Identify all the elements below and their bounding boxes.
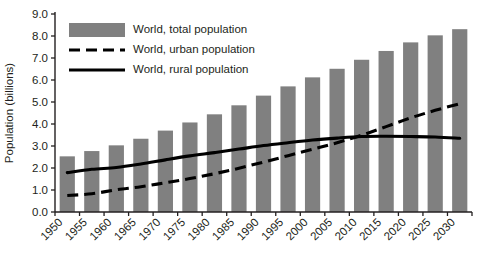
legend-swatch-total-population	[69, 23, 125, 37]
y-tick-label-6.0: 6.0	[32, 74, 48, 86]
chart-canvas: 0.01.02.03.04.05.06.07.08.09.0Population…	[0, 0, 491, 262]
y-tick-label-8.0: 8.0	[32, 30, 48, 42]
x-tick-label-1970: 1970	[136, 216, 163, 243]
x-tick-label-1960: 1960	[87, 216, 114, 243]
bar-2025	[428, 35, 443, 212]
bar-1955	[84, 151, 99, 212]
x-tick-label-2020: 2020	[382, 216, 409, 243]
bar-2000	[305, 77, 320, 212]
x-tick-label-2015: 2015	[357, 216, 384, 243]
x-tick-label-2010: 2010	[332, 216, 359, 243]
legend-label-total-population: World, total population	[133, 23, 247, 35]
y-tick-label-1.0: 1.0	[32, 184, 48, 196]
x-tick-label-1950: 1950	[38, 216, 65, 243]
bar-2015	[379, 51, 394, 212]
y-tick-label-7.0: 7.0	[32, 52, 48, 64]
bar-2020	[403, 42, 418, 212]
bar-1985	[231, 105, 246, 212]
x-tick-label-2025: 2025	[406, 216, 433, 243]
bar-1990	[256, 96, 271, 212]
y-tick-label-2.0: 2.0	[32, 162, 48, 174]
bar-1995	[280, 86, 295, 212]
legend-label-urban-population: World, urban population	[133, 43, 255, 55]
legend-label-rural-population: World, rural population	[133, 63, 249, 75]
bar-1965	[133, 139, 148, 212]
bar-1975	[182, 122, 197, 212]
bar-2030	[452, 29, 467, 212]
y-tick-label-0.0: 0.0	[32, 206, 48, 218]
bar-1970	[158, 131, 173, 212]
y-tick-label-3.0: 3.0	[32, 140, 48, 152]
y-axis-title: Population (billions)	[3, 63, 15, 164]
bar-1950	[60, 156, 75, 212]
x-tick-label-1980: 1980	[185, 216, 212, 243]
bar-1980	[207, 114, 222, 212]
x-tick-label-1990: 1990	[234, 216, 261, 243]
x-tick-label-1995: 1995	[259, 216, 286, 243]
y-tick-label-5.0: 5.0	[32, 96, 48, 108]
x-tick-label-2005: 2005	[308, 216, 335, 243]
y-tick-label-4.0: 4.0	[32, 118, 48, 130]
x-tick-label-2000: 2000	[283, 216, 310, 243]
bar-1960	[109, 145, 124, 212]
population-chart: 0.01.02.03.04.05.06.07.08.09.0Population…	[0, 0, 491, 262]
x-tick-label-1955: 1955	[63, 216, 90, 243]
x-tick-label-1965: 1965	[112, 216, 139, 243]
y-tick-label-9.0: 9.0	[32, 8, 48, 20]
x-tick-label-1985: 1985	[210, 216, 237, 243]
x-tick-label-2030: 2030	[431, 216, 458, 243]
x-tick-label-1975: 1975	[161, 216, 188, 243]
